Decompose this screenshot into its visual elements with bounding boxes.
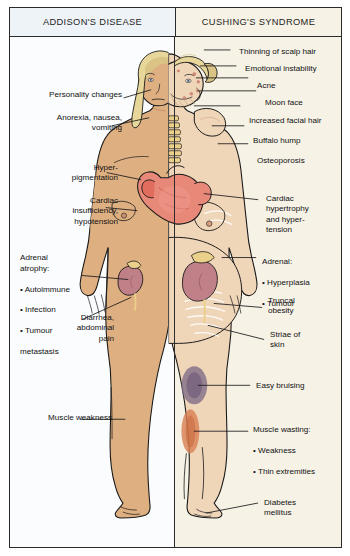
- label-muscle-weakness: Muscle weakness: [20, 413, 112, 423]
- label-layer: Personality changes Anorexia, nausea, vo…: [10, 8, 341, 547]
- label-hyperpigmentation: Hyper- pigmentation: [30, 163, 118, 184]
- bullet-thin-extremities: • Thin extremities: [253, 467, 342, 477]
- label-diabetes-mellitus: Diabetes mellitus: [264, 498, 340, 519]
- label-acne: Acne: [257, 81, 327, 91]
- label-thinning-scalp-hair: Thinning of scalp hair: [239, 47, 342, 57]
- label-moon-face: Moon face: [265, 98, 342, 108]
- label-osteoporosis: Osteoporosis: [257, 156, 342, 166]
- label-increased-facial-hair: Increased facial hair: [249, 116, 342, 126]
- clinical-comparison-figure: ADDISON'S DISEASE CUSHING'S SYNDROME: [0, 0, 350, 556]
- label-adrenal-heading: Adrenal:: [262, 257, 342, 267]
- label-adrenal-atrophy: Adrenal atrophy: • Autoimmune • Infectio…: [20, 243, 114, 368]
- label-personality-changes: Personality changes: [22, 90, 122, 100]
- label-buffalo-hump: Buffalo hump: [253, 136, 342, 146]
- label-adrenal-atrophy-heading: Adrenal atrophy:: [20, 253, 114, 274]
- label-anorexia-nausea-vomiting: Anorexia, nausea, vomiting: [18, 113, 122, 134]
- label-diarrhea-abdominal-pain: Diarrhea, abdominal pain: [28, 313, 114, 344]
- label-muscle-wasting: Muscle wasting: • Weakness • Thin extrem…: [253, 415, 342, 488]
- label-muscle-wasting-heading: Muscle wasting:: [253, 425, 342, 435]
- bullet-tumour-metastasis: metastasis: [20, 347, 114, 357]
- figure-frame: ADDISON'S DISEASE CUSHING'S SYNDROME: [9, 7, 342, 548]
- label-cardiac-hypertrophy: Cardiac hypertrophy and hyper- tension: [266, 194, 342, 236]
- label-cardiac-insufficiency: Cardiac insufficiency, hypotension: [22, 196, 118, 227]
- bullet-weakness: • Weakness: [253, 446, 342, 456]
- label-easy-bruising: Easy bruising: [256, 381, 342, 391]
- label-emotional-instability: Emotional instability: [245, 64, 342, 74]
- label-striae-of-skin: Striae of skin: [270, 330, 342, 351]
- bullet-hyperplasia: • Hyperplasia: [262, 278, 342, 288]
- bullet-autoimmune: • Autoimmune: [20, 285, 114, 295]
- label-truncal-obesity: Truncal obesity: [268, 296, 342, 317]
